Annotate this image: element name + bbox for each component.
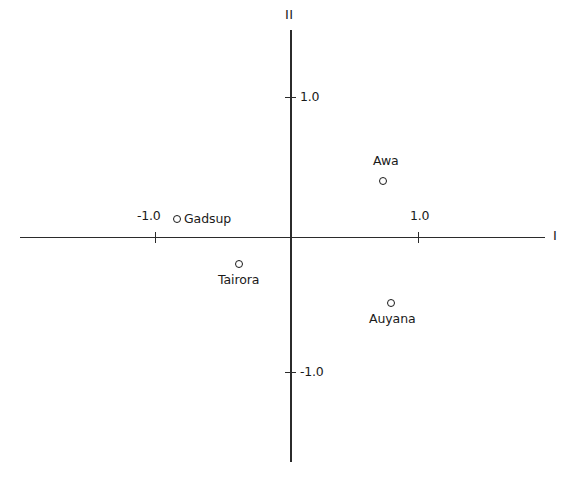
marker-icon-tairora <box>235 260 243 268</box>
data-point-label-tairora: Tairora <box>218 272 259 287</box>
x-tick-pos-one-label: 1.0 <box>410 208 429 223</box>
marker-icon-gadsup <box>173 215 181 223</box>
y-axis-label: II <box>285 7 294 22</box>
x-tick-neg-one-label: -1.0 <box>137 208 161 223</box>
y-axis-line <box>290 30 292 462</box>
y-tick-neg-one-mark <box>285 372 296 373</box>
x-axis-line <box>20 237 545 238</box>
marker-icon-auyana <box>387 299 395 307</box>
data-point-label-gadsup: Gadsup <box>184 211 231 226</box>
data-point-label-awa: Awa <box>373 153 399 168</box>
marker-icon-awa <box>379 177 387 185</box>
y-tick-pos-one-mark <box>285 97 296 98</box>
y-tick-neg-one-label: -1.0 <box>300 364 324 379</box>
scatter-plot: I II -1.0 1.0 1.0 -1.0 Awa Gadsup Tairor… <box>0 0 576 478</box>
y-tick-pos-one-label: 1.0 <box>300 89 319 104</box>
x-axis-label: I <box>553 228 557 243</box>
data-point-label-auyana: Auyana <box>369 311 416 326</box>
x-tick-neg-one-mark <box>155 232 156 243</box>
x-tick-pos-one-mark <box>418 232 419 243</box>
